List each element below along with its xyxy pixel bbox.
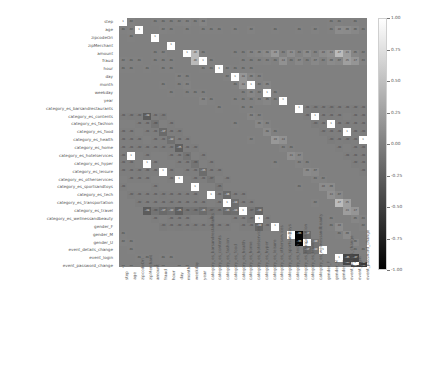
heatmap-cell — [287, 215, 295, 223]
heatmap-plot-area[interactable]: 1.02.01.01.01.02.03.01.04.01.01.01.01.02… — [119, 18, 367, 270]
heatmap-cell — [223, 42, 231, 50]
heatmap-cell — [295, 191, 303, 199]
heatmap-cell: -.08 — [183, 207, 191, 215]
heatmap-cell — [239, 18, 247, 26]
heatmap-cell — [239, 34, 247, 42]
heatmap-cell — [311, 89, 319, 97]
heatmap-cell: .01 — [151, 18, 159, 26]
heatmap-cell: .14 — [279, 136, 287, 144]
heatmap-cell — [263, 113, 271, 121]
x-tick-label: day — [179, 272, 184, 280]
heatmap-cell — [175, 89, 183, 97]
heatmap-cell: .46 — [191, 57, 199, 65]
heatmap-cell — [127, 231, 135, 239]
x-tick-label: category_es_tech — [295, 272, 300, 280]
heatmap-cell — [135, 73, 143, 81]
heatmap-cell: .01 — [327, 215, 335, 223]
heatmap-cell — [271, 207, 279, 215]
heatmap-cell: .03 — [183, 81, 191, 89]
heatmap-cell — [351, 97, 359, 105]
heatmap-cell — [335, 65, 343, 73]
colorbar-tick-mark — [387, 144, 390, 145]
heatmap-cell: -.01 — [151, 128, 159, 136]
heatmap-cell — [303, 120, 311, 128]
heatmap-cell: -.01 — [143, 199, 151, 207]
heatmap-cell — [327, 176, 335, 184]
heatmap-cell: .01 — [271, 57, 279, 65]
heatmap-cell — [271, 18, 279, 26]
heatmap-cell — [127, 183, 135, 191]
heatmap-cell: .06 — [247, 73, 255, 81]
heatmap-cell: .09 — [327, 183, 335, 191]
heatmap-cell: .02 — [127, 26, 135, 34]
heatmap-cell: .01 — [207, 97, 215, 105]
heatmap-cell — [119, 254, 127, 262]
heatmap-cell: -.01 — [215, 223, 223, 231]
heatmap-cell — [143, 239, 151, 247]
heatmap-cell — [255, 18, 263, 26]
heatmap-cell — [247, 144, 255, 152]
colorbar-tick-mark — [387, 18, 390, 19]
heatmap-cell — [263, 18, 271, 26]
heatmap-cell — [247, 18, 255, 26]
heatmap-cell — [191, 105, 199, 113]
heatmap-cell — [215, 42, 223, 50]
heatmap-cell — [327, 246, 335, 254]
heatmap-cell — [135, 18, 143, 26]
heatmap-cell — [319, 42, 327, 50]
heatmap-cell: -.02 — [127, 113, 135, 121]
heatmap-cell — [335, 168, 343, 176]
heatmap-cell — [247, 176, 255, 184]
heatmap-cell — [159, 73, 167, 81]
heatmap-cell — [255, 152, 263, 160]
heatmap-cell — [119, 223, 127, 231]
heatmap-cell — [207, 128, 215, 136]
heatmap-cell — [199, 231, 207, 239]
heatmap-cell: .01 — [183, 26, 191, 34]
heatmap-cell: -.01 — [135, 136, 143, 144]
heatmap-cell — [279, 183, 287, 191]
heatmap-cell — [191, 246, 199, 254]
heatmap-cell: -.01 — [191, 176, 199, 184]
heatmap-cell — [255, 128, 263, 136]
heatmap-cell — [279, 26, 287, 34]
heatmap-cell — [143, 57, 151, 65]
heatmap-cell: .07 — [295, 57, 303, 65]
heatmap-cell: -.01 — [175, 152, 183, 160]
heatmap-cell — [287, 18, 295, 26]
heatmap-cell: 1 — [231, 73, 239, 81]
heatmap-cell — [223, 168, 231, 176]
x-tick-label: zipMerchant — [148, 272, 153, 280]
heatmap-cell — [127, 42, 135, 50]
heatmap-cell: -.19 — [255, 207, 263, 215]
heatmap-cell — [127, 215, 135, 223]
heatmap-cell: -.02 — [127, 191, 135, 199]
heatmap-cell-grid[interactable]: 1.02.01.01.01.02.03.01.04.01.01.01.01.02… — [119, 18, 367, 270]
heatmap-cell: -.01 — [351, 152, 359, 160]
heatmap-cell — [279, 81, 287, 89]
heatmap-cell: .10 — [335, 223, 343, 231]
heatmap-cell — [319, 18, 327, 26]
heatmap-cell — [271, 152, 279, 160]
heatmap-cell — [287, 183, 295, 191]
heatmap-cell: -.01 — [319, 120, 327, 128]
heatmap-cell — [287, 97, 295, 105]
heatmap-cell: .07 — [311, 168, 319, 176]
heatmap-cell: -.01 — [183, 199, 191, 207]
heatmap-cell — [255, 105, 263, 113]
heatmap-cell: .01 — [327, 26, 335, 34]
heatmap-cell — [271, 81, 279, 89]
heatmap-cell: .01 — [191, 89, 199, 97]
heatmap-cell: .02 — [311, 26, 319, 34]
heatmap-cell — [359, 191, 367, 199]
heatmap-cell — [199, 246, 207, 254]
heatmap-cell: .07 — [311, 57, 319, 65]
heatmap-cell — [159, 152, 167, 160]
heatmap-cell — [143, 81, 151, 89]
heatmap-cell — [247, 231, 255, 239]
heatmap-cell: 1 — [295, 105, 303, 113]
heatmap-cell: -.01 — [143, 176, 151, 184]
heatmap-cell: .01 — [295, 183, 303, 191]
heatmap-cell — [127, 223, 135, 231]
heatmap-cell — [287, 73, 295, 81]
